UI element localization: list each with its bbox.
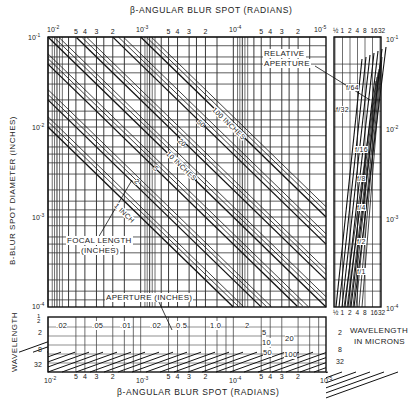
wavelength-tick: 2	[348, 27, 352, 34]
minor-tick-label: 2	[296, 28, 300, 35]
relative-aperture-label: f/1	[357, 268, 366, 275]
minor-tick-label: 4	[268, 28, 272, 35]
wavelength-microns-label-2: IN MICRONS	[354, 337, 405, 346]
wavelength-tick: 8	[363, 309, 367, 316]
relative-aperture-label: f/32	[336, 106, 349, 113]
minor-tick-label: 4	[83, 28, 87, 35]
aperture-inches-label: APERTURE (INCHES)	[105, 293, 193, 302]
minor-tick-label: 2	[203, 373, 207, 380]
minor-tick-label: 4	[83, 373, 87, 380]
aperture-series-label: 10	[262, 338, 271, 347]
minor-tick-label: 5	[167, 373, 171, 380]
wl-right-tick-2: 2	[338, 329, 342, 336]
wavelength-tick: 16	[371, 309, 378, 316]
bottom-tick-1e-5: 10-5	[320, 375, 332, 384]
minor-tick-label: 4	[176, 373, 180, 380]
right-y-tick-1e-3: 10-3	[386, 214, 398, 223]
wl-right-tick-8: 8	[338, 346, 342, 353]
right-y-tick-1e-4: 10-4	[386, 303, 398, 312]
wl-tick-32: 32	[34, 361, 42, 368]
y-tick-1e-4: 10-4	[32, 301, 44, 310]
minor-tick-label: 3	[280, 373, 284, 380]
bottom-tick-1e-3: 10-3	[136, 375, 148, 384]
top-tick-1e-3: 10-3	[136, 24, 148, 33]
wavelength-tick: 2	[348, 309, 352, 316]
aperture-series-label: 5	[262, 328, 266, 337]
relative-aperture-label: f/4	[357, 204, 366, 211]
right-y-tick-1e-2: 10-2	[386, 124, 398, 133]
minor-tick-label: 4	[268, 373, 272, 380]
focal-length-label-2: (INCHES)	[80, 246, 120, 255]
minor-tick-label: 2	[111, 373, 115, 380]
y-tick-1e-1: 10-1	[28, 32, 40, 41]
aperture-series-label: .01	[120, 321, 131, 330]
relative-aperture-label: f/16	[355, 146, 368, 153]
relative-aperture-label-1: RELATIVE	[263, 49, 306, 58]
wavelength-tick: ½	[333, 27, 338, 34]
wavelength-tick: 1	[341, 27, 345, 34]
minor-tick-label: 5	[259, 28, 263, 35]
relative-aperture-label: f/2	[357, 238, 366, 245]
wavelength-tick: ½	[333, 309, 338, 316]
y-tick-1e-3: 10-3	[32, 212, 44, 221]
top-x-axis-title: β-ANGULAR BLUR SPOT (RADIANS)	[130, 5, 292, 15]
wavelength-tick: 32	[378, 27, 385, 34]
top-tick-1e-2: 10-2	[47, 24, 59, 33]
minor-tick-label: 5	[74, 373, 78, 380]
wl-tick-2: 2	[38, 329, 42, 336]
aperture-series-label: .02	[56, 321, 67, 330]
bottom-x-axis-title: β-ANGULAR BLUR SPOT (RADIANS)	[117, 387, 279, 397]
minor-tick-label: 3	[94, 28, 98, 35]
relative-aperture-label: f/8	[357, 175, 366, 182]
minor-tick-label: 2	[111, 28, 115, 35]
wavelength-tick: 32	[378, 309, 385, 316]
minor-tick-label: 2	[296, 373, 300, 380]
wavelength-left-label: WAVELENGTH	[10, 312, 19, 372]
minor-tick-label: 5	[74, 28, 78, 35]
minor-tick-label: 3	[187, 28, 191, 35]
nomograph-chart	[0, 0, 411, 403]
wavelength-microns-label-1: WAVELENGTH	[350, 326, 408, 335]
wavelength-tick: 8	[363, 27, 367, 34]
minor-tick-label: 3	[94, 373, 98, 380]
relative-aperture-label-2: APERTURE	[263, 59, 311, 68]
aperture-series-label: .02	[150, 321, 161, 330]
y-axis-title: B-BLUR SPOT DIAMETER (INCHES)	[8, 116, 17, 265]
leader-lines	[98, 66, 370, 330]
wl-right-tick-32: 32	[336, 358, 344, 365]
minor-tick-label: 3	[187, 373, 191, 380]
right-y-tick-1e-1: 10-1	[386, 34, 398, 43]
wavelength-tick: 4	[356, 27, 360, 34]
wavelength-tick: 1	[341, 309, 345, 316]
aperture-series-label: .05	[92, 321, 103, 330]
aperture-series-label: 1.0	[210, 321, 221, 330]
minor-tick-label: 2	[203, 28, 207, 35]
minor-tick-label: 5	[167, 28, 171, 35]
aperture-series-label: 50	[263, 348, 272, 357]
wavelength-tick: 16	[371, 27, 378, 34]
aperture-series-label: 20	[285, 334, 294, 343]
wavelength-tick: 4	[356, 309, 360, 316]
y-tick-1e-2: 10-2	[32, 122, 44, 131]
aperture-series-label: 2	[245, 321, 249, 330]
minor-tick-label: 5	[259, 373, 263, 380]
aperture-series-label: 0.5	[176, 321, 187, 330]
bottom-tick-1e-2: 10-2	[44, 375, 56, 384]
minor-tick-label: 4	[176, 28, 180, 35]
wl-tick-8: 8	[38, 346, 42, 353]
wl-tick-half: 12	[37, 314, 40, 324]
bottom-tick-1e-4: 10-4	[229, 375, 241, 384]
top-tick-1e-5: 10-5	[314, 24, 326, 33]
focal-length-label-1: FOCAL LENGTH	[66, 236, 133, 245]
minor-tick-label: 3	[280, 28, 284, 35]
relative-aperture-label: f/64	[346, 84, 359, 91]
top-tick-1e-4: 10-4	[229, 24, 241, 33]
aperture-series-label: 100	[284, 350, 297, 359]
